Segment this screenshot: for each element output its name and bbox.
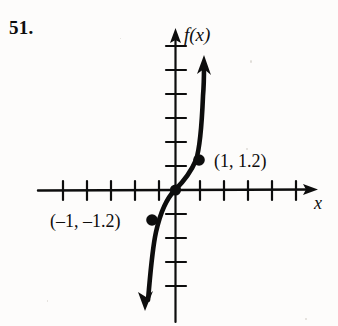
math-figure: 51. <box>0 0 338 326</box>
origin-point-marker <box>170 184 181 195</box>
coordinate-plot <box>0 0 338 326</box>
curve-arrow-down-icon <box>138 291 153 311</box>
x-axis-label: x <box>314 194 322 212</box>
point-label-positive: (1, 1.2) <box>214 152 267 170</box>
point-marker-negative <box>146 214 158 226</box>
y-axis-label: f(x) <box>184 25 210 44</box>
y-axis <box>166 28 186 322</box>
point-marker-positive <box>193 154 205 166</box>
point-label-negative: (–1, –1.2) <box>50 212 121 230</box>
